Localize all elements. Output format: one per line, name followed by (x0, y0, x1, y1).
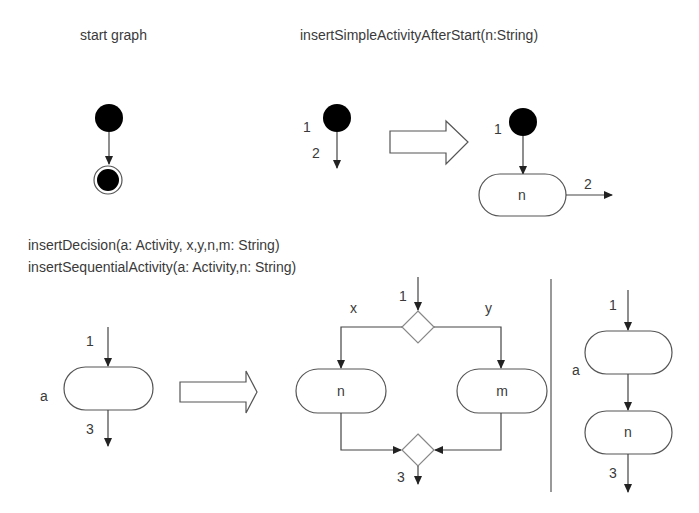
initial-node-icon (509, 108, 537, 136)
edge-label-1: 1 (399, 288, 407, 304)
activity-label-n: n (624, 424, 632, 440)
activity-name-a: a (40, 388, 48, 404)
flow-arrow-right-branch (434, 327, 501, 368)
activity-node-a (585, 331, 672, 374)
insert-sequential-title: insertSequentialActivity(a: Activity,n: … (28, 259, 296, 275)
edge-label-3: 3 (86, 421, 94, 437)
guard-label-y: y (485, 300, 492, 316)
flow-arrow-left-branch (341, 327, 402, 368)
activity-label: n (518, 187, 526, 203)
edge-label-3: 3 (609, 465, 617, 481)
start-graph-panel: start graph (80, 27, 147, 194)
edge-label-1: 1 (303, 119, 311, 135)
insert-decision-title: insertDecision(a: Activity, x,y,n,m: Str… (28, 237, 280, 253)
insert-simple-title: insertSimpleActivityAfterStart(n:String) (300, 27, 538, 43)
edge-label-1: 1 (609, 297, 617, 313)
activity-node-a (64, 367, 153, 410)
edge-label-2: 2 (312, 145, 320, 161)
decision-sequential-panel: insertDecision(a: Activity, x,y,n,m: Str… (28, 237, 672, 492)
final-node-inner-icon (97, 169, 119, 191)
merge-node-icon (402, 434, 434, 466)
activity-label-n: n (337, 383, 345, 399)
edge-label-2: 2 (584, 176, 592, 192)
start-graph-title: start graph (80, 27, 147, 43)
flow-arrow-merge-right (435, 413, 501, 450)
transform-arrow-icon (180, 371, 257, 413)
edge-label-3: 3 (397, 469, 405, 485)
edge-label-1: 1 (86, 333, 94, 349)
transform-arrow-icon (390, 121, 468, 164)
edge-label-1: 1 (494, 121, 502, 137)
activity-name-a: a (572, 362, 580, 378)
initial-node-icon (323, 104, 351, 132)
initial-node-icon (95, 104, 123, 132)
insert-simple-activity-panel: insertSimpleActivityAfterStart(n:String)… (300, 27, 612, 216)
flow-arrow-merge-left (341, 413, 401, 450)
transformation-rules-diagram: start graph insertSimpleActivityAfterSta… (0, 0, 699, 513)
decision-node-icon (402, 311, 434, 343)
guard-label-x: x (350, 300, 357, 316)
activity-label-m: m (496, 383, 508, 399)
